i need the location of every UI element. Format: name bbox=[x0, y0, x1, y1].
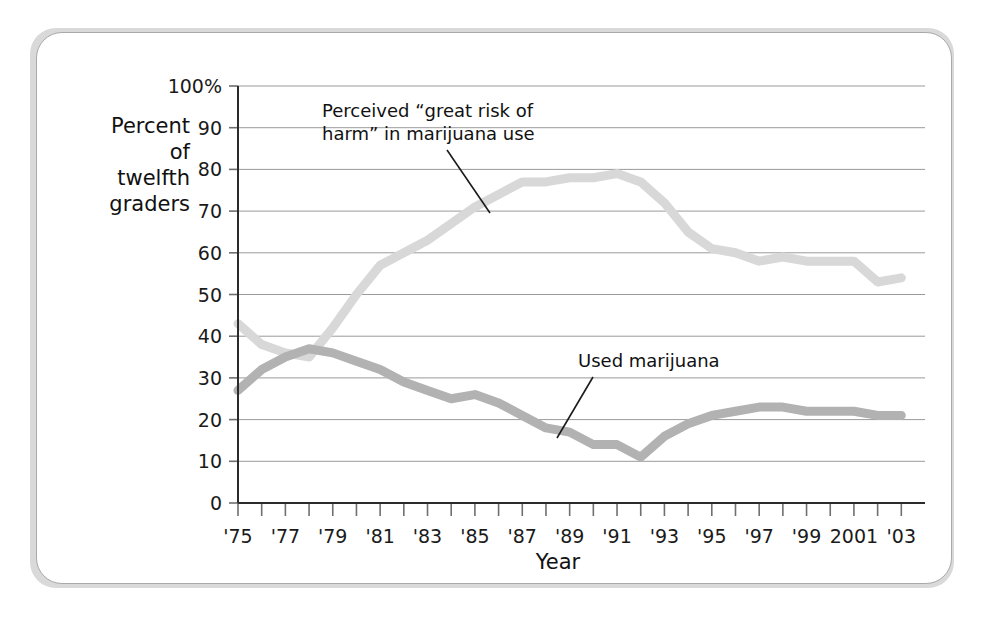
y-tick-marks bbox=[229, 86, 238, 503]
x-tick-label: '89 bbox=[555, 525, 584, 547]
y-tick-label: 30 bbox=[198, 367, 222, 389]
perceived-risk-annotation-leader-line bbox=[447, 150, 490, 213]
x-tick-label: '81 bbox=[365, 525, 394, 547]
figure-root: 100%9080706050403020100 '75'77'79'81'83'… bbox=[0, 0, 1007, 635]
used-marijuana-annotation-text: Used marijuana bbox=[578, 350, 720, 371]
x-tick-label: '93 bbox=[650, 525, 679, 547]
line-chart: 100%9080706050403020100 '75'77'79'81'83'… bbox=[0, 0, 1007, 635]
y-tick-label: 60 bbox=[198, 242, 222, 264]
y-tick-label: 70 bbox=[198, 200, 222, 222]
plot-area: 100%9080706050403020100 '75'77'79'81'83'… bbox=[0, 0, 1007, 635]
y-tick-label: 80 bbox=[198, 158, 222, 180]
series-lines bbox=[238, 174, 901, 458]
perceived-risk-annotation-text: Perceived “great risk ofharm” in marijua… bbox=[322, 100, 535, 144]
series-line-0 bbox=[238, 174, 901, 357]
x-tick-label: 2001 bbox=[830, 525, 878, 547]
x-tick-label: '85 bbox=[460, 525, 489, 547]
y-axis-title: Percentoftwelfthgraders bbox=[109, 114, 190, 216]
y-axis-title: Percentoftwelfthgraders bbox=[109, 114, 190, 216]
y-tick-label: 50 bbox=[198, 284, 222, 306]
x-axis-title: Year bbox=[535, 550, 581, 574]
x-tick-label: '77 bbox=[271, 525, 300, 547]
x-tick-label: '91 bbox=[602, 525, 631, 547]
x-tick-label: '83 bbox=[413, 525, 442, 547]
y-tick-label: 90 bbox=[198, 117, 222, 139]
series-line-1 bbox=[238, 349, 901, 457]
x-tick-label: '03 bbox=[887, 525, 916, 547]
y-tick-label: 0 bbox=[210, 492, 222, 514]
x-tick-label: '75 bbox=[223, 525, 252, 547]
y-tick-label: 40 bbox=[198, 325, 222, 347]
x-tick-labels: '75'77'79'81'83'85'87'89'91'93'95'97'992… bbox=[223, 525, 916, 547]
x-tick-label: '97 bbox=[744, 525, 773, 547]
y-tick-label: 10 bbox=[198, 450, 222, 472]
x-tick-label: '87 bbox=[508, 525, 537, 547]
x-tick-label: '79 bbox=[318, 525, 347, 547]
x-tick-label: '99 bbox=[792, 525, 821, 547]
x-tick-marks bbox=[238, 503, 901, 516]
used-marijuana-annotation-leader-line bbox=[557, 377, 593, 438]
y-tick-label: 20 bbox=[198, 409, 222, 431]
y-tick-label: 100% bbox=[168, 75, 222, 97]
x-tick-label: '95 bbox=[697, 525, 726, 547]
